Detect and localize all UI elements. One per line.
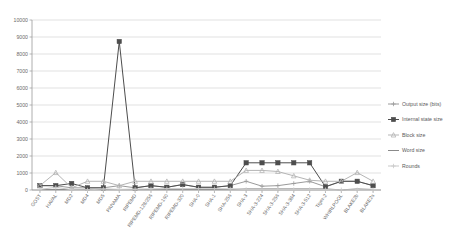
legend-marker (391, 117, 395, 121)
y-axis-tick-label: 6000 (16, 85, 28, 91)
chart-legend: Output size (bits)Internal state sizeBlo… (388, 101, 443, 169)
y-axis-tick-label: 3000 (16, 136, 28, 142)
x-axis-tick-label: SHA-3 (235, 192, 248, 208)
y-axis-tick-label: 1000 (16, 170, 28, 176)
legend-marker (391, 164, 395, 168)
x-axis-tick-label: Tiger-2 (314, 192, 328, 208)
y-axis-tick-label: 7000 (16, 68, 28, 74)
data-point-marker (391, 117, 395, 121)
x-axis-tick-label: SHA-256 (216, 192, 233, 212)
x-axis-tick-label: GOST (29, 193, 42, 208)
y-axis-tick-label: 9000 (16, 34, 28, 40)
legend-item[interactable]: Word size (388, 147, 425, 153)
x-axis-tick-label: HAVAL (44, 192, 58, 208)
data-point-marker (244, 161, 248, 165)
x-axis-tick-label: MD2 (63, 192, 74, 204)
data-point-marker (307, 161, 311, 165)
legend-marker (391, 102, 395, 106)
y-axis-tick-label: 8000 (16, 51, 28, 57)
legend-item[interactable]: Block size (388, 132, 425, 138)
hash-function-properties-chart: 0100020003000400050006000700080009000100… (0, 0, 458, 248)
x-axis-tick-label: MD4 (79, 192, 90, 204)
legend-item[interactable]: Output size (bits) (388, 101, 441, 107)
x-axis-tick-label: MD5 (95, 192, 106, 204)
y-axis-tick-label: 5000 (16, 102, 28, 108)
data-point-marker (260, 161, 264, 165)
x-axis-tick-label: PANAMA (105, 192, 122, 213)
legend-item[interactable]: Rounds (388, 163, 420, 169)
x-axis-tick-label: SHA-1 (203, 192, 216, 208)
data-point-marker (292, 161, 296, 165)
chart-canvas: 0100020003000400050006000700080009000100… (0, 0, 458, 248)
legend-item[interactable]: Internal state size (388, 116, 443, 122)
data-point-marker (355, 179, 359, 183)
data-point-marker (371, 183, 375, 187)
legend-item-label: Rounds (402, 163, 420, 169)
x-axis-tick-label: SHA-0 (188, 192, 201, 208)
data-point-marker (117, 39, 121, 43)
y-axis-tick-label: 4000 (16, 119, 28, 125)
legend-item-label: Word size (402, 147, 425, 153)
y-axis-tick-label: 10000 (14, 17, 29, 23)
y-axis-tick-label: 0 (25, 187, 28, 193)
x-axis-tick-label: RIPEMD (121, 192, 137, 212)
x-axis-tick-label: BLAKE2b (342, 192, 359, 213)
x-axis-ticks: GOSTHAVALMD2MD4MD5PANAMARIPEMDRIPEMD-128… (29, 190, 375, 228)
y-axis-tick-label: 2000 (16, 153, 28, 159)
legend-item-label: Block size (402, 132, 425, 138)
x-axis-tick-label: BLAKE2s (358, 192, 375, 213)
legend-item-label: Output size (bits) (402, 101, 441, 107)
data-point-marker (276, 161, 280, 165)
legend-item-label: Internal state size (402, 116, 443, 122)
